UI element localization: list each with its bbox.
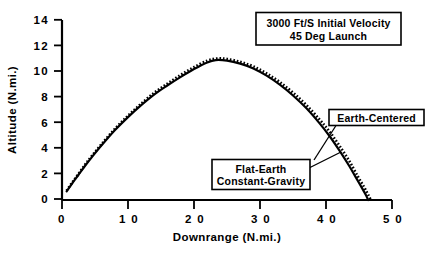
y-tick-label: 8 <box>41 91 49 103</box>
y-tick-label: 14 <box>33 14 49 26</box>
y-tick-label: 10 <box>33 65 49 77</box>
x-tick-labels: 0 1 0 2 0 3 0 4 0 5 0 <box>58 213 403 225</box>
y-axis-ticks <box>54 20 62 199</box>
chart-figure: 0 2 4 6 8 10 12 14 0 1 0 2 0 3 0 4 0 5 0… <box>0 0 429 257</box>
y-tick-labels: 0 2 4 6 8 10 12 14 <box>33 14 49 205</box>
annotation-earth-centered-label: Earth-Centered <box>337 112 416 124</box>
conditions-line-2: 45 Deg Launch <box>290 30 367 42</box>
conditions-line-1: 3000 Ft/S Initial Velocity <box>266 17 390 29</box>
annotation-flat-earth-label-1: Flat-Earth <box>235 163 286 175</box>
x-tick-label: 4 0 <box>317 213 337 225</box>
x-tick-label: 0 <box>58 213 66 225</box>
x-tick-label: 3 0 <box>251 213 271 225</box>
y-tick-label: 0 <box>41 193 49 205</box>
annotation-flat-earth-label-2: Constant-Gravity <box>217 175 305 187</box>
y-tick-label: 6 <box>41 117 49 129</box>
x-axis-ticks <box>62 200 392 209</box>
conditions-box: 3000 Ft/S Initial Velocity 45 Deg Launch <box>256 13 401 46</box>
x-tick-label: 2 0 <box>185 213 205 225</box>
y-axis-title: Altitude (N.mi.) <box>6 66 18 154</box>
y-tick-label: 4 <box>41 142 49 154</box>
x-tick-label: 1 0 <box>119 213 139 225</box>
x-tick-label: 5 0 <box>383 213 403 225</box>
annotation-earth-centered: Earth-Centered <box>314 110 424 161</box>
y-tick-label: 12 <box>33 40 49 52</box>
y-tick-label: 2 <box>41 168 49 180</box>
trajectory-chart: 0 2 4 6 8 10 12 14 0 1 0 2 0 3 0 4 0 5 0… <box>0 0 429 257</box>
annotation-flat-earth: Flat-Earth Constant-Gravity <box>212 152 341 190</box>
x-axis-title: Downrange (N.mi.) <box>173 231 281 243</box>
